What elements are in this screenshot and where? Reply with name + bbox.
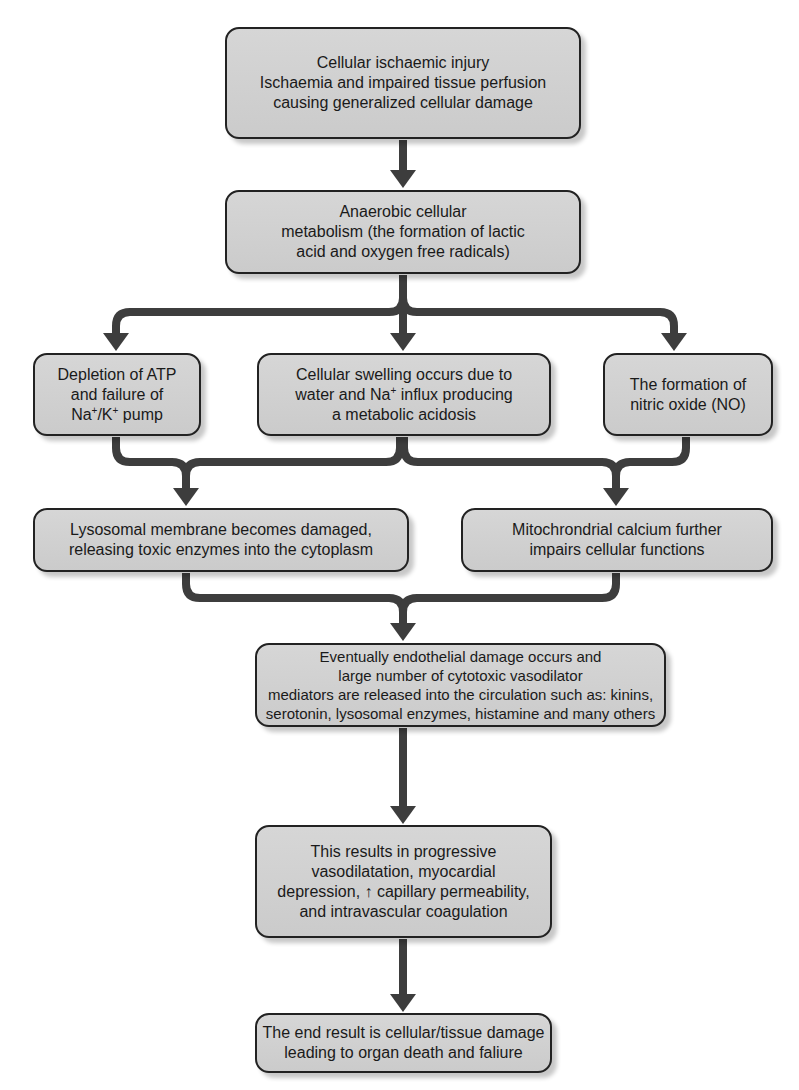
node-text-line: This results in progressive	[311, 842, 497, 862]
node-atp-depletion: Depletion of ATP and failure of Na+/K+ p…	[33, 353, 201, 436]
node-text-line: The end result is cellular/tissue damage	[263, 1023, 545, 1043]
arrow-to-endothelial	[186, 573, 616, 641]
arrow-endothelial-to-progressive	[390, 728, 416, 824]
node-text-line: leading to organ death and faliure	[284, 1043, 522, 1063]
node-end-result: The end result is cellular/tissue damage…	[255, 1013, 552, 1073]
node-text-line: mediators are released into the circulat…	[268, 685, 653, 704]
arrow-metabolism-branch	[103, 275, 687, 351]
node-nitric-oxide: The formation of nitric oxide (NO)	[603, 353, 773, 436]
node-text-line: causing generalized cellular damage	[273, 93, 533, 113]
node-lysosomal-damage: Lysosomal membrane becomes damaged, rele…	[33, 508, 409, 572]
node-text-line: and failure of	[71, 385, 164, 405]
node-text-line: Eventually endothelial damage occurs and	[320, 647, 602, 666]
arrow-progressive-to-end	[390, 939, 416, 1012]
node-text-line: serotonin, lysosomal enzymes, histamine …	[266, 704, 655, 723]
node-text-line: vasodilatation, myocardial	[311, 862, 495, 882]
text-part: pump	[118, 406, 162, 423]
node-cellular-swelling: Cellular swelling occurs due to water an…	[257, 353, 551, 436]
node-text-line: depression, ↑ capillary permeability,	[277, 882, 529, 902]
node-text-line: Depletion of ATP	[58, 365, 177, 385]
text-part: water and Na	[295, 386, 390, 403]
node-progressive-effects: This results in progressive vasodilatati…	[255, 825, 552, 938]
node-text-line: releasing toxic enzymes into the cytopla…	[69, 540, 373, 560]
flowchart-canvas: Cellular ischaemic injury Ischaemia and …	[0, 0, 799, 1090]
arrow-to-lysosomal	[116, 437, 400, 506]
text-part: influx producing	[396, 386, 513, 403]
node-text-line: Mitochrondrial calcium further	[512, 520, 722, 540]
node-text-line: Na+/K+ pump	[71, 405, 163, 425]
node-text-line: metabolism (the formation of lactic	[281, 222, 525, 242]
node-text-line: Ischaemia and impaired tissue perfusion	[260, 73, 546, 93]
node-text-line: and intravascular coagulation	[299, 902, 507, 922]
node-text-line: acid and oxygen free radicals)	[296, 242, 509, 262]
node-ischaemic-injury: Cellular ischaemic injury Ischaemia and …	[225, 27, 581, 139]
node-text-line: water and Na+ influx producing	[295, 385, 513, 405]
node-endothelial-damage: Eventually endothelial damage occurs and…	[255, 643, 666, 727]
node-text-line: a metabolic acidosis	[332, 405, 476, 425]
node-text-line: Cellular swelling occurs due to	[296, 365, 512, 385]
node-mitochondrial-calcium: Mitochrondrial calcium further impairs c…	[461, 508, 773, 572]
node-text-line: impairs cellular functions	[529, 540, 704, 560]
arrow-injury-to-metabolism	[390, 140, 416, 188]
node-text-line: Cellular ischaemic injury	[317, 53, 490, 73]
node-text-line: Lysosomal membrane becomes damaged,	[70, 520, 372, 540]
node-text-line: nitric oxide (NO)	[630, 395, 746, 415]
node-text-line: The formation of	[630, 375, 747, 395]
node-text-line: large number of cytotoxic vasodilator	[338, 666, 582, 685]
node-anaerobic-metabolism: Anaerobic cellular metabolism (the forma…	[225, 190, 581, 274]
node-text-line: Anaerobic cellular	[339, 202, 466, 222]
arrow-to-mitochondrial	[404, 437, 686, 506]
text-part: /K	[97, 406, 112, 423]
text-part: Na	[71, 406, 91, 423]
